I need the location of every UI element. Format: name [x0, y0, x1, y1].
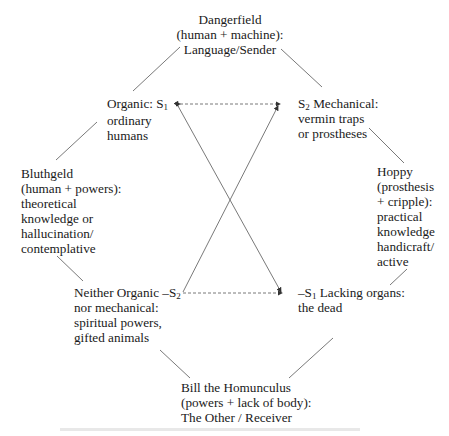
node-line: Hoppy: [377, 164, 435, 179]
edge-notS1-bottom: [289, 338, 333, 378]
cropped-caption: [60, 428, 360, 431]
node-line: spiritual powers,: [74, 315, 181, 330]
node-hoppy: Hoppy (prosthesis + cripple): practical …: [377, 164, 435, 269]
node-line: (powers + lack of body):: [181, 395, 311, 410]
edge-left-notS2: [57, 256, 83, 281]
node-line: Language/Sender: [170, 42, 290, 57]
node-line: active: [377, 254, 435, 269]
node-line: knowledge or: [21, 211, 121, 226]
node-bill-homunculus: Bill the Homunculus (powers + lack of bo…: [181, 380, 311, 425]
node-line: practical: [377, 209, 435, 224]
edge-notS2-s2-diagonal: [183, 106, 278, 292]
node-line: The Other / Receiver: [181, 410, 311, 425]
node-line: or prostheses: [298, 126, 378, 141]
node-heading: –S1 Lacking organs:: [298, 285, 405, 300]
node-dangerfield: Dangerfield (human + machine): Language/…: [170, 12, 290, 57]
node-line: gifted animals: [74, 330, 181, 345]
node-line: vermin traps: [298, 111, 378, 126]
node-line: humans: [107, 128, 168, 143]
node-heading: S2 Mechanical:: [298, 96, 378, 111]
node-bluthgeld: Bluthgeld (human + powers): theoretical …: [21, 166, 121, 256]
node-heading: Neither Organic –S2: [74, 285, 181, 300]
node-line: knowledge: [377, 224, 435, 239]
node-heading: Organic: S1: [107, 96, 168, 111]
node-line: Bluthgeld: [21, 166, 121, 181]
node-neither-not-s2: Neither Organic –S2 nor mechanical: spir…: [74, 285, 181, 345]
node-line: nor mechanical:: [74, 300, 181, 315]
node-line: theoretical: [21, 196, 121, 211]
edge-notS2-bottom: [160, 350, 190, 378]
node-line: (prosthesis: [377, 179, 435, 194]
node-line: the dead: [298, 300, 405, 315]
node-line: hallucination/: [21, 226, 121, 241]
node-line: handicraft/: [377, 239, 435, 254]
node-line: (human + powers):: [21, 181, 121, 196]
node-lacking-not-s1: –S1 Lacking organs: the dead: [298, 285, 405, 315]
node-line: Bill the Homunculus: [181, 380, 311, 395]
edge-s1-left: [56, 122, 97, 160]
node-line: + cripple):: [377, 194, 435, 209]
node-mechanical-s2: S2 Mechanical: vermin traps or prosthese…: [298, 96, 378, 141]
node-line: contemplative: [21, 241, 121, 256]
node-line: (human + machine):: [170, 27, 290, 42]
node-line: ordinary: [107, 113, 168, 128]
node-line: Dangerfield: [170, 12, 290, 27]
edge-s1-notS1-diagonal: [178, 106, 281, 292]
node-organic-s1: Organic: S1 ordinary humans: [107, 96, 168, 143]
edge-right-notS1: [390, 269, 407, 285]
